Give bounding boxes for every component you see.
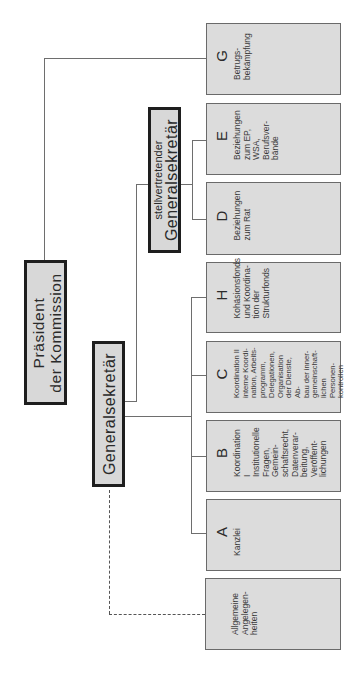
deputy-secretary-general-box: stellvertretender Generalsekretär: [148, 107, 181, 253]
deputy-label: stellvertretender: [151, 141, 163, 220]
unit-description: Beziehungen zum Rat: [232, 190, 251, 244]
unit-description: Koordination I Institutionelle Fragen, G…: [232, 425, 328, 481]
unit-description: Kohäsionsfonds und Koordina- tion der St…: [232, 258, 270, 323]
connector-president-up: [44, 58, 45, 260]
secretary-general-box: Generalsekretär: [92, 341, 125, 487]
unit-letter: G: [213, 28, 229, 84]
unit-description: Beziehungen zum EP, WSA, Berufsver- bänd…: [232, 108, 280, 164]
connector-sg-out: [125, 416, 191, 417]
unit-letter: B: [213, 425, 229, 481]
president-title-line1: Präsident: [29, 297, 46, 368]
connector-sg-to-deputy-h2: [136, 184, 148, 185]
connector-to-a: [191, 533, 206, 534]
connector-president-to-g: [44, 58, 206, 59]
unit-letter: C: [213, 346, 229, 402]
connector-to-c: [191, 375, 206, 376]
connector-to-b: [191, 456, 206, 457]
unit-box-h: H Kohäsionsfonds und Koordina- tion der …: [206, 262, 341, 333]
connector-to-d: [192, 219, 206, 220]
unit-description: Kanzlei: [232, 528, 242, 560]
unit-box-allgemeine: Allgemeine Angelegen- heiten: [205, 578, 341, 650]
unit-letter: E: [213, 108, 229, 164]
connector-dashed-to-allgemeine: [109, 614, 205, 615]
president-title-line2: der Kommission: [46, 273, 63, 393]
secretary-general-title: Generalsekretär: [100, 353, 118, 475]
unit-description: Koordination II interne Koordi- nation, …: [232, 346, 345, 402]
unit-description: Betrugs- bekämpfung: [232, 33, 251, 84]
unit-box-g: G Betrugs- bekämpfung: [206, 23, 341, 95]
connector-sg-to-deputy-v: [136, 184, 137, 402]
unit-letter: D: [213, 187, 229, 244]
unit-box-e: E Beziehungen zum EP, WSA, Berufsver- bä…: [206, 103, 341, 175]
unit-letter: A: [213, 504, 229, 560]
unit-box-c: C Koordination II interne Koordi- nation…: [206, 341, 341, 413]
connector-deputy-trunk: [192, 140, 193, 220]
connector-to-e: [192, 140, 206, 141]
connector-deputy-out: [181, 184, 192, 185]
connector-to-h: [191, 297, 206, 298]
unit-box-a: A Kanzlei: [206, 499, 341, 571]
unit-box-b: B Koordination I Institutionelle Fragen,…: [206, 420, 341, 492]
connector-sg-to-deputy-h1: [125, 401, 136, 402]
connector-sg-trunk: [191, 297, 192, 534]
unit-letter: H: [213, 267, 229, 322]
unit-description: Allgemeine Angelegen- heiten: [231, 592, 260, 639]
president-box: Präsident der Kommission: [24, 260, 67, 405]
unit-box-d: D Beziehungen zum Rat: [206, 182, 341, 255]
deputy-title: Generalsekretär: [163, 119, 178, 241]
connector-dashed-sg-down: [109, 490, 110, 614]
